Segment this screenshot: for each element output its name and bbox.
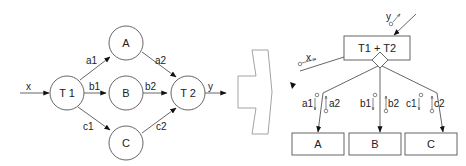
input-x-label: x: [26, 81, 31, 92]
edge-a1-label: a1: [86, 55, 98, 66]
node-a-label: A: [122, 37, 130, 49]
right-input-x-label: x: [306, 52, 311, 63]
child-b-label: B: [371, 138, 378, 150]
right-input-x-token: [298, 62, 302, 66]
right-graph-labels: T1 + T2 x y a1 a2 b1 b2 c1 c2 A B C: [302, 11, 445, 150]
transform-arrow-icon: [238, 50, 272, 134]
child-a-label: A: [314, 138, 322, 150]
right-output-y-flow: [393, 14, 400, 22]
node-t2-label: T 2: [180, 87, 196, 99]
node-t1-label: T 1: [59, 87, 75, 99]
child-c-label: C: [427, 138, 435, 150]
edge-c1-label: c1: [83, 121, 94, 132]
right-input-x-arrowhead-icon: [290, 82, 296, 89]
right-output-y-label: y: [386, 11, 391, 22]
flow-a2-label: a2: [329, 98, 341, 109]
edge-b2-label: b2: [145, 81, 157, 92]
node-c-label: C: [122, 137, 130, 149]
root-label: T1 + T2: [358, 42, 396, 54]
flow-b1-token: [373, 93, 377, 97]
flow-c1-token: [419, 93, 423, 97]
edge-a2-label: a2: [155, 55, 167, 66]
edge-c2-label: c2: [156, 121, 167, 132]
right-graph: [290, 14, 457, 155]
flow-c1-label: c1: [406, 98, 417, 109]
flow-c2-label: c2: [434, 98, 445, 109]
right-output-y-token: [389, 22, 393, 26]
output-y-label: y: [208, 81, 213, 92]
flow-b2-label: b2: [388, 98, 400, 109]
edge-b1-label: b1: [89, 81, 101, 92]
flow-a1-label: a1: [302, 98, 314, 109]
flow-a1-token: [315, 93, 319, 97]
node-b-label: B: [122, 87, 129, 99]
flow-b1-label: b1: [360, 98, 372, 109]
diagram-canvas: T 1 A B C T 2 x y a1 b1 c1 a2 b2 c2: [0, 0, 466, 166]
